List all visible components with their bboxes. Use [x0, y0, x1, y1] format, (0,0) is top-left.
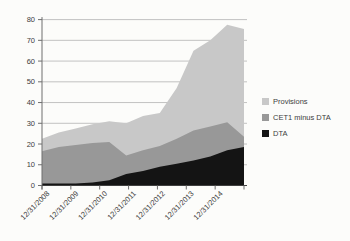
x-axis-tick-label: 12/31/2014	[192, 189, 225, 222]
x-axis-tick-label: 12/31/2012	[134, 189, 167, 222]
dta-series-marker-icon	[262, 130, 269, 137]
legend-item-cet1-minus-dta: CET1 minus DTA	[262, 114, 331, 121]
stacked-area-chart: 0102030405060708012/31/200812/31/200912/…	[0, 0, 350, 241]
legend-label: Provisions	[273, 97, 308, 106]
legend-item-provisions: Provisions	[262, 98, 331, 105]
x-axis-tick-label: 12/31/2011	[105, 189, 138, 222]
y-axis-tick-label: 50	[27, 77, 35, 86]
provisions-series-marker-icon	[262, 98, 269, 105]
legend-label: CET1 minus DTA	[273, 113, 331, 122]
legend-item-dta: DTA	[262, 130, 331, 137]
y-axis-tick-label: 60	[27, 57, 35, 66]
y-axis-tick-label: 40	[27, 98, 35, 107]
cet1-minus-dta-series-marker-icon	[262, 114, 269, 121]
y-axis-tick-label: 20	[27, 140, 35, 149]
y-axis-tick-label: 70	[27, 36, 35, 45]
x-axis-tick-label: 12/31/2009	[47, 189, 80, 222]
chart-legend: Provisions CET1 minus DTA DTA	[262, 98, 331, 137]
y-axis-tick-label: 10	[27, 160, 35, 169]
x-axis-tick-label: 12/31/2010	[76, 189, 109, 222]
y-axis-tick-label: 30	[27, 119, 35, 128]
x-axis-tick-label: 12/31/2008	[19, 189, 52, 222]
y-axis-tick-label: 0	[31, 181, 35, 190]
y-axis-tick-label: 80	[27, 15, 35, 24]
legend-label: DTA	[273, 129, 287, 138]
x-axis-tick-label: 12/31/2013	[163, 189, 196, 222]
